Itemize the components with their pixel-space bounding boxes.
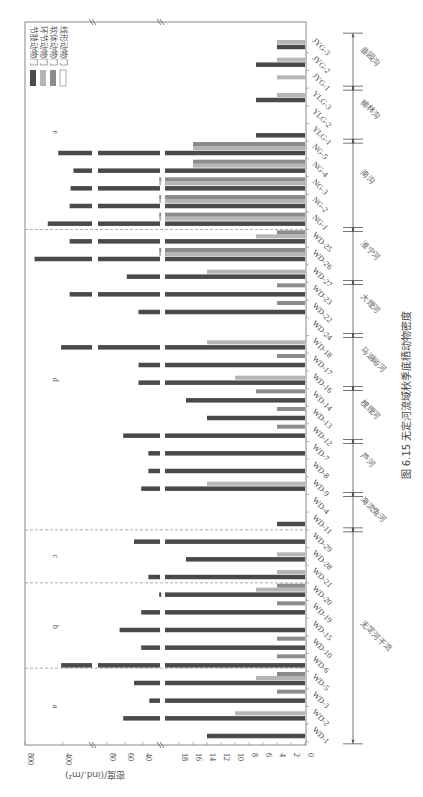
- value-tick-label: 4: [278, 753, 287, 757]
- group-label: 榆林沟: [359, 97, 383, 121]
- value-tick-label: 8: [250, 753, 259, 757]
- category-label: NG-3: [311, 177, 330, 196]
- group-label: 淮宁河: [359, 238, 383, 262]
- panel-letters: abcde: [51, 131, 60, 709]
- category-label: WD-3: [311, 690, 332, 711]
- category-label: WD-1: [311, 725, 332, 746]
- group-label: 韭园沟: [359, 44, 383, 68]
- group-label: 南沟: [359, 168, 377, 186]
- value-tick-label: 16: [194, 753, 203, 761]
- value-tick-label: 10: [236, 753, 245, 761]
- legend-label: 线形动物门: [59, 26, 69, 66]
- group-label: 芦河: [359, 450, 377, 468]
- value-tick-label: 80: [108, 753, 117, 761]
- legend: 节肢动物门环节动物门软体动物门线形动物门: [29, 26, 69, 86]
- value-tick-label: 60: [126, 753, 135, 761]
- value-tick-label: 14: [208, 753, 217, 761]
- category-label: NG-4: [311, 160, 330, 179]
- legend-label: 节肢动物门: [29, 26, 39, 66]
- figure-caption: 图 6.15 无定河流域秋季底栖动物密度: [400, 311, 412, 480]
- group-label: 槐理河: [359, 397, 383, 421]
- legend-label: 环节动物门: [39, 26, 49, 66]
- panel-letter: b: [51, 625, 60, 629]
- category-label: JYG-3: [311, 36, 332, 57]
- group-label: 海流兔河: [359, 495, 389, 525]
- legend-label: 软体动物门: [49, 26, 59, 66]
- panel-letter: e: [51, 131, 60, 135]
- value-tick-label: 400: [64, 753, 73, 765]
- value-tick-label: 800: [26, 753, 35, 765]
- bars: [35, 40, 306, 738]
- panel-letter: d: [51, 378, 60, 382]
- category-axis: WD-1WD-2WD-3WD-5WD-6WD-10WD-15WD-19WD-20…: [306, 36, 334, 746]
- value-tick-label: 12: [222, 753, 231, 761]
- category-label: JYG-1: [311, 71, 332, 92]
- value-axis-title: 密度/(ind./m²): [65, 770, 125, 781]
- group-label: 大理河: [359, 291, 383, 315]
- value-tick-label: 18: [180, 753, 189, 761]
- value-tick-label: 40: [144, 753, 153, 761]
- value-tick-label: 2: [292, 753, 301, 757]
- panel-letter: c: [51, 555, 60, 559]
- group-label: 无定河干流: [359, 618, 394, 653]
- category-label: WD-2: [311, 707, 332, 728]
- category-label: WD-5: [311, 672, 332, 693]
- category-label: WD-8: [311, 460, 332, 481]
- group-brackets: 无定河干流海流兔河芦河槐理河马湖峪河大理河淮宁河南沟榆林沟韭园沟: [343, 33, 394, 744]
- panel-letter: a: [51, 705, 60, 709]
- category-label: WD-9: [311, 478, 332, 499]
- category-label: WD-4: [311, 495, 332, 516]
- category-label: JYG-2: [311, 54, 332, 75]
- value-tick-label: 6: [264, 753, 273, 757]
- value-tick-label: 0: [306, 753, 315, 757]
- category-label: NG-2: [311, 195, 330, 214]
- category-label: NG-1: [311, 213, 330, 232]
- group-label: 马湖峪河: [359, 344, 389, 374]
- rotated-bar-chart: 024681012141618406080400800 WD-1WD-2WD-3…: [0, 0, 423, 797]
